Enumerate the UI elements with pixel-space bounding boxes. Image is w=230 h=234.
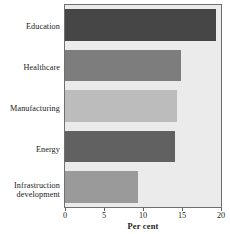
x-axis-title: Per cent [64, 222, 222, 231]
category-label-education: Education [0, 22, 60, 31]
bar-manufacturing [65, 90, 177, 122]
x-tick-label-10: 10 [131, 211, 155, 221]
category-label-healthcare-text: Healthcare [24, 63, 60, 72]
category-label-infrastructure-line1: Infrastruction [14, 181, 60, 190]
plot-area [64, 4, 222, 208]
bar-energy [65, 131, 175, 163]
bar-healthcare [65, 50, 181, 82]
x-tick-label-20: 20 [209, 211, 230, 221]
category-label-healthcare: Healthcare [0, 63, 60, 72]
bar-chart: Education Healthcare Manufacturing Energ… [0, 0, 230, 234]
category-label-energy: Energy [0, 145, 60, 154]
x-tick-label-0: 0 [53, 211, 77, 221]
category-label-education-text: Education [26, 22, 60, 31]
x-tick-label-5: 5 [92, 211, 116, 221]
category-label-energy-text: Energy [36, 145, 60, 154]
x-tick-label-15: 15 [170, 211, 194, 221]
category-axis: Education Healthcare Manufacturing Energ… [0, 4, 62, 208]
bars-layer [65, 5, 221, 207]
bar-infrastructure-development [65, 171, 138, 203]
category-label-manufacturing: Manufacturing [0, 104, 60, 113]
category-label-infrastructure-line2: development [17, 190, 60, 199]
x-axis: Per cent 05101520 [64, 208, 222, 234]
bar-education [65, 9, 216, 41]
category-label-manufacturing-text: Manufacturing [10, 104, 60, 113]
category-label-infrastructure: Infrastruction development [0, 181, 60, 200]
